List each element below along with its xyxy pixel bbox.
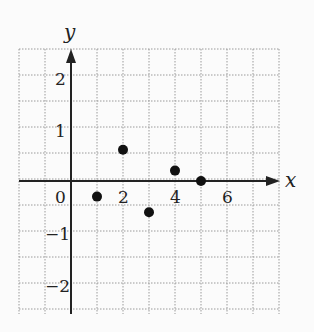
x-tick-2: 2 [118, 187, 129, 207]
origin-label: 0 [55, 187, 66, 207]
data-point [92, 192, 102, 202]
x-axis-arrow-icon [266, 176, 280, 186]
x-tick-4: 4 [170, 187, 181, 207]
data-point [118, 145, 128, 155]
y-tick-1: 1 [55, 121, 66, 141]
x-axis-label: x [285, 168, 296, 192]
y-tick-2: 2 [55, 69, 66, 89]
data-point [196, 176, 206, 186]
y-axis-label: y [63, 20, 76, 44]
y-axis-arrow-icon [66, 49, 76, 63]
y-tick-neg2: −2 [45, 276, 70, 296]
y-tick-neg1: −1 [45, 224, 70, 244]
x-tick-6: 6 [222, 187, 233, 207]
scatter-plot: x y 0 2 4 6 2 1 −1 −2 [0, 0, 314, 332]
data-point [144, 207, 154, 217]
data-point [170, 166, 180, 176]
